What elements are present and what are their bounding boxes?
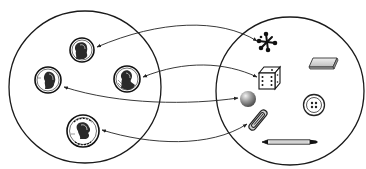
eraser-icon (309, 58, 338, 69)
arrow-dime-marble (64, 87, 238, 102)
penny-coin-icon: Penny (114, 66, 140, 93)
pencil-icon (262, 140, 318, 144)
jack-icon (258, 33, 277, 52)
quarter-coin-icon: Quarter (67, 115, 99, 148)
button-icon (304, 95, 325, 116)
paperclip-icon (248, 109, 269, 132)
set-mapping-diagram: Nickel Dime Penny Quarter (0, 0, 366, 169)
nickel-coin-icon: Nickel (70, 38, 94, 63)
die-icon (259, 67, 280, 89)
dime-coin-icon: Dime (35, 67, 61, 94)
marble-icon (240, 91, 256, 107)
